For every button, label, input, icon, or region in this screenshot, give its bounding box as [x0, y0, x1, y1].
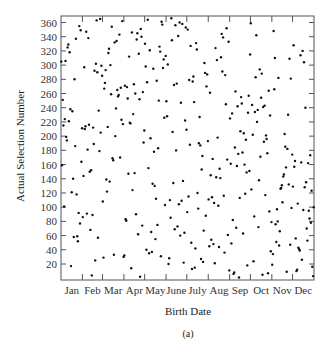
data-point	[210, 239, 212, 241]
data-point	[257, 109, 259, 111]
data-point	[260, 97, 262, 99]
data-point	[171, 39, 173, 41]
data-point	[280, 187, 282, 189]
data-point	[86, 148, 88, 150]
data-point	[246, 264, 248, 266]
data-point	[149, 49, 151, 51]
data-point	[282, 175, 284, 177]
data-point	[297, 202, 299, 204]
data-point	[71, 191, 73, 193]
data-point	[205, 85, 207, 87]
data-point	[203, 229, 205, 231]
data-point	[214, 262, 216, 264]
data-point	[245, 171, 247, 173]
data-point	[181, 23, 183, 25]
data-point	[287, 114, 289, 116]
data-point	[300, 161, 302, 163]
data-point	[154, 185, 156, 187]
data-point	[81, 127, 83, 129]
data-point	[80, 29, 82, 31]
scatter-chart: 2040608010012014016018020022024026028030…	[0, 0, 333, 354]
data-point	[304, 186, 306, 188]
data-point	[153, 151, 155, 153]
data-point	[202, 261, 204, 263]
y-tick-label: 160	[41, 159, 58, 171]
data-point	[212, 243, 214, 245]
data-point	[150, 231, 152, 233]
data-point	[292, 44, 294, 46]
data-point	[283, 133, 285, 135]
data-point	[126, 86, 128, 88]
data-point	[88, 124, 90, 126]
data-point	[166, 115, 168, 117]
data-point	[110, 93, 112, 95]
data-point	[204, 72, 206, 74]
data-point	[83, 66, 85, 68]
data-point	[65, 136, 67, 138]
data-point	[310, 222, 312, 224]
data-point	[233, 271, 235, 273]
data-point	[254, 111, 256, 113]
data-point	[146, 81, 148, 83]
data-point	[172, 182, 174, 184]
data-point	[296, 269, 298, 271]
data-point	[104, 82, 106, 84]
data-point	[212, 158, 214, 160]
data-point	[91, 274, 93, 276]
data-point	[277, 77, 279, 79]
data-point	[142, 91, 144, 93]
data-point	[208, 245, 210, 247]
data-point	[187, 28, 189, 30]
data-point	[256, 121, 258, 123]
data-point	[210, 174, 212, 176]
data-point	[290, 77, 292, 79]
y-tick-label: 240	[41, 102, 58, 114]
data-point	[128, 55, 130, 57]
data-point	[274, 57, 276, 59]
data-point	[214, 47, 216, 49]
data-point	[179, 234, 181, 236]
data-point	[152, 68, 154, 70]
data-point	[263, 104, 265, 106]
data-point	[189, 144, 191, 146]
y-axis-label: Actual Selection Number	[14, 76, 26, 216]
data-point	[243, 163, 245, 165]
data-point	[207, 198, 209, 200]
data-point	[102, 200, 104, 202]
data-point	[160, 21, 162, 23]
data-point	[293, 166, 295, 168]
data-point	[259, 68, 261, 70]
data-point	[98, 109, 100, 111]
data-point	[145, 249, 147, 251]
data-point	[199, 144, 201, 146]
data-point	[198, 116, 200, 118]
data-point	[60, 60, 62, 62]
data-point	[133, 83, 135, 85]
y-tick-label: 360	[41, 17, 58, 29]
data-point	[77, 212, 79, 214]
data-point	[99, 18, 101, 20]
data-point	[72, 178, 74, 180]
y-tick-label: 120	[41, 187, 58, 199]
data-point	[180, 200, 182, 202]
data-point	[247, 112, 249, 114]
data-point	[191, 268, 193, 270]
data-point	[174, 24, 176, 26]
data-point	[302, 209, 304, 211]
data-point	[184, 119, 186, 121]
data-point	[168, 257, 170, 259]
data-point	[290, 207, 292, 209]
data-point	[265, 134, 267, 136]
y-tick-label: 140	[41, 173, 58, 185]
data-point	[235, 227, 237, 229]
data-point	[275, 241, 277, 243]
data-point	[248, 170, 250, 172]
y-tick-label: 100	[41, 201, 58, 213]
data-point	[112, 159, 114, 161]
data-point	[250, 188, 252, 190]
data-point	[127, 173, 129, 175]
data-point	[94, 259, 96, 261]
data-point	[66, 139, 68, 141]
data-point	[176, 82, 178, 84]
data-point	[240, 96, 242, 98]
